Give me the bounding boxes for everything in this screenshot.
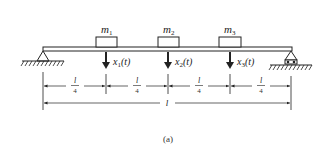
segment-label-4: l 4: [257, 76, 265, 95]
mass-1: m1: [96, 23, 117, 47]
svg-text:m3: m3: [224, 23, 236, 37]
svg-text:l: l: [260, 76, 263, 85]
mass-2: m2: [158, 23, 179, 47]
segment-label-2: l 4: [133, 76, 141, 95]
mass-3: m3: [219, 23, 241, 47]
displacement-arrow-2: x2(t): [164, 52, 193, 69]
displacement-arrow-1: x1(t): [102, 52, 131, 69]
svg-text:l: l: [136, 76, 139, 85]
svg-text:l: l: [166, 98, 169, 108]
figure-caption: (a): [163, 134, 173, 144]
svg-text:l: l: [74, 76, 77, 85]
roller-support-right: [269, 51, 312, 70]
svg-text:4: 4: [73, 87, 77, 95]
svg-text:m2: m2: [163, 23, 175, 37]
svg-text:4: 4: [135, 87, 139, 95]
dimension-total: l: [44, 98, 290, 108]
beam-diagram: m1 m2 m3 x1(t) x2(t) x3(t): [0, 0, 336, 152]
pin-support-left: [21, 51, 64, 66]
svg-text:4: 4: [197, 87, 201, 95]
svg-text:l: l: [198, 76, 201, 85]
segment-label-1: l 4: [71, 76, 79, 95]
beam: [43, 47, 292, 51]
segment-label-3: l 4: [195, 76, 203, 95]
svg-text:x1(t): x1(t): [112, 56, 131, 69]
svg-text:m1: m1: [101, 23, 113, 37]
svg-text:x3(t): x3(t): [236, 56, 255, 69]
svg-text:x2(t): x2(t): [174, 56, 193, 69]
displacement-arrow-3: x3(t): [226, 52, 255, 69]
svg-text:4: 4: [259, 87, 263, 95]
